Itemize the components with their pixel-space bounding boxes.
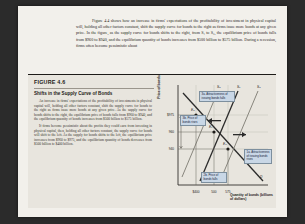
figure-caption-paragraph: If firms become pessimistic about the pr… [34, 124, 152, 147]
figure-caption-paragraph: An increase in firms' expectations of th… [34, 99, 152, 122]
figure-title: Shifts in the Supply Curve of Bonds [34, 91, 158, 96]
curve-label-S1: S₁ [237, 85, 240, 89]
y-tick-label: $975 [160, 113, 174, 117]
equilibrium-point-E2 [226, 147, 229, 150]
curve-label-D: D [260, 175, 262, 179]
page-top-paragraph: Figure 4.4 shows how an increase in firm… [76, 18, 276, 49]
x-tick-label: 500 [207, 190, 221, 194]
equilibrium-label-E3: E₃ [191, 108, 195, 112]
shift-arrow-right [233, 132, 246, 137]
supply-curve-S2 [220, 91, 258, 181]
callout-attractiveness-falls: 3a. Attractiveness of issuing bonds fall… [199, 91, 235, 102]
curve-label-S3: S₃ [217, 85, 221, 89]
textbook-page: Figure 4.4 shows how an increase in firm… [18, 6, 287, 217]
callout-attractiveness-rises: 1a. Attractiveness of issuing bonds rise… [244, 149, 272, 164]
equilibrium-point-E1 [212, 130, 215, 133]
supply-demand-chart: Price of bonds Quantity of bonds (billio… [156, 77, 274, 205]
y-tick-label: 960 [160, 130, 174, 134]
figure-caption-body: An increase in firms' expectations of th… [34, 99, 152, 149]
figure-box: FIGURE 4.6 Shifts in the Supply Curve of… [28, 74, 276, 208]
supply-curve-S3 [182, 91, 218, 177]
chart-x-axis-label: Quantity of bonds (billions of dollars) [230, 193, 274, 201]
figure-number-label: FIGURE 4.6 [34, 79, 65, 85]
chart-y-axis-label: Price of bonds [157, 67, 161, 107]
x-tick-label: 575 [221, 190, 235, 194]
supply-curve-S1 [200, 91, 238, 181]
equilibrium-label-E2: E₂ [223, 142, 226, 146]
figure-rule-divider [34, 88, 154, 89]
callout-price-falls: 2b. Price of bonds falls [201, 172, 227, 183]
curve-label-S2: S₂ [257, 85, 260, 89]
equilibrium-label-E1: E₁ [209, 125, 212, 129]
x-tick-label: $400 [189, 190, 203, 194]
callout-price-rises: 3b. Price of bonds rises [180, 115, 206, 126]
y-tick-label: 940 [160, 147, 174, 151]
demand-curve-D [183, 93, 263, 181]
